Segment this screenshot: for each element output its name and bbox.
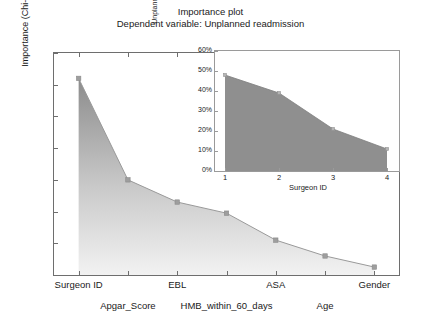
main-y-axis-label: Importance (Chi-square)	[20, 0, 30, 93]
inset-x-tick-label: 1	[223, 173, 227, 182]
inset-y-tick-label: 20%	[172, 126, 212, 133]
inset-y-tick-mark	[215, 151, 218, 152]
inset-plot-area: 0%10%20%30%40%50%60% 1234 Unplanned read…	[214, 50, 400, 172]
inset-y-tick-mark	[215, 51, 218, 52]
figure-subtitle: Dependent variable: Unplanned readmissio…	[0, 18, 421, 30]
main-x-tick-mark	[325, 271, 326, 275]
main-x-tick-mark	[177, 271, 178, 275]
inset-y-tick-mark	[215, 131, 218, 132]
inset-y-tick-label: 0%	[172, 166, 212, 173]
inset-y-tick-label: 10%	[172, 146, 212, 153]
main-y-tick-mark	[54, 275, 58, 276]
inset-area-series	[215, 51, 399, 171]
main-y-tick-mark	[54, 148, 58, 149]
main-x-tick-mark	[79, 271, 80, 275]
main-y-tick-mark	[54, 53, 58, 54]
main-y-tick-mark	[54, 116, 58, 117]
inset-y-tick-mark	[215, 91, 218, 92]
inset-plot-canvas	[215, 51, 399, 171]
main-x-tick-label: Age	[317, 300, 334, 311]
main-x-tick-mark	[276, 271, 277, 275]
main-y-tick-mark	[54, 85, 58, 86]
main-x-tick-mark-top	[128, 53, 129, 57]
inset-x-axis-label: Surgeon ID	[215, 183, 401, 192]
main-x-tick-label: ASA	[266, 279, 285, 290]
inset-y-axis-label: Unplanned readmission	[151, 0, 158, 49]
main-x-tick-mark-top	[177, 53, 178, 57]
figure-title: Importance plot	[0, 6, 421, 18]
main-x-tick-label: EBL	[168, 279, 186, 290]
main-y-tick-mark	[54, 180, 58, 181]
figure-title-block: Importance plot Dependent variable: Unpl…	[0, 6, 421, 30]
main-x-tick-mark	[374, 271, 375, 275]
inset-x-tick-label: 4	[385, 173, 389, 182]
inset-y-tick-label: 30%	[172, 106, 212, 113]
inset-y-tick-label: 50%	[172, 66, 212, 73]
inset-y-tick-mark	[215, 171, 218, 172]
main-x-tick-mark	[227, 271, 228, 275]
inset-x-tick-mark	[225, 168, 226, 171]
main-x-tick-label: Surgeon ID	[55, 279, 103, 290]
main-y-tick-mark	[54, 212, 58, 213]
inset-x-tick-label: 3	[331, 173, 335, 182]
main-x-tick-label: Apgar_Score	[100, 300, 155, 311]
main-x-tick-mark-top	[79, 53, 80, 57]
inset-x-tick-mark	[333, 168, 334, 171]
main-y-tick-mark	[54, 243, 58, 244]
main-x-tick-mark	[128, 271, 129, 275]
inset-y-tick-mark	[215, 111, 218, 112]
inset-y-tick-label: 40%	[172, 86, 212, 93]
inset-y-tick-mark	[215, 71, 218, 72]
main-x-tick-label: Gender	[359, 279, 391, 290]
inset-y-tick-label: 60%	[172, 46, 212, 53]
main-x-tick-labels: Surgeon IDApgar_ScoreEBLHMB_within_60_da…	[0, 278, 421, 326]
importance-plot-figure: Importance plot Dependent variable: Unpl…	[0, 0, 421, 327]
inset-x-tick-label: 2	[277, 173, 281, 182]
inset-x-tick-mark	[387, 168, 388, 171]
inset-x-tick-mark	[279, 168, 280, 171]
main-x-tick-label: HMB_within_60_days	[181, 300, 273, 311]
